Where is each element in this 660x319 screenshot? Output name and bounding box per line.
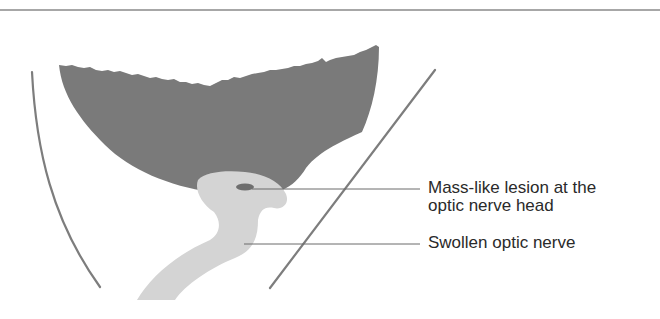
diagram-canvas: Mass-like lesion at the optic nerve head… [0,0,660,319]
label-lesion-line-2: optic nerve head [428,197,596,215]
label-lesion-line-1: Mass-like lesion at the [428,179,596,197]
optic-nerve [137,171,287,300]
lesion-spot [236,184,254,191]
label-nerve: Swollen optic nerve [428,234,575,252]
label-lesion: Mass-like lesion at the optic nerve head [428,179,596,215]
label-nerve-line-1: Swollen optic nerve [428,234,575,252]
optic-nerve-illustration [0,0,660,319]
